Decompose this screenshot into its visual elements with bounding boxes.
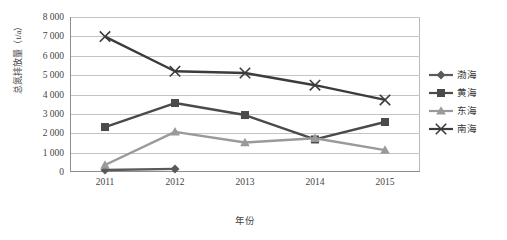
legend-label: 南海 [454,123,477,135]
line-chart-figure: 总氮排放量（t/a） 8 0007 0006 0005 0004 0003 00… [0,0,507,240]
legend-item[interactable]: 南海 [428,120,504,138]
y-tick-label: 5 000 [18,70,64,81]
x-tick-label: 2012 [145,176,205,188]
data-point-square [437,89,445,97]
data-point-diamond [437,71,446,80]
y-tick-label: 7 000 [18,31,64,42]
legend-item[interactable]: 东海 [428,102,504,120]
data-point-diamond [171,164,180,173]
y-tick-label: 6 000 [18,51,64,62]
legend-swatch-diamond [428,68,454,82]
y-tick-label: 4 000 [18,90,64,101]
legend-swatch-triangle [428,104,454,118]
x-axis-title: 年份 [70,213,420,227]
series-triangle [100,127,390,169]
series-line [105,103,385,139]
series-diamond [101,164,180,174]
legend-label: 东海 [454,105,477,117]
y-tick-label: 3 000 [18,109,64,120]
series-line [105,132,385,165]
data-point-square [241,111,249,119]
y-tick-label: 8 000 [18,12,64,23]
data-point-square [171,99,179,107]
y-axis-tick-labels: 8 0007 0006 0005 0004 0003 0002 0001 000… [18,11,64,171]
series-x [100,31,390,105]
y-tick-label: 0 [18,167,64,178]
y-tick-label: 2 000 [18,128,64,139]
legend: 渤海黄海东海南海 [428,66,504,138]
legend-label: 渤海 [454,69,477,81]
y-tick-label: 1 000 [18,148,64,159]
x-tick-label: 2015 [355,176,415,188]
legend-item[interactable]: 黄海 [428,84,504,102]
legend-item[interactable]: 渤海 [428,66,504,84]
legend-label: 黄海 [454,87,477,99]
x-tick-label: 2013 [215,176,275,188]
series-line [105,169,175,170]
series-layer [70,17,420,172]
series-line [105,37,385,100]
data-point-square [381,118,389,126]
x-axis-tick-labels: 20112012201320142015 [70,176,420,190]
series-square [101,99,389,143]
data-point-x [100,31,110,41]
legend-swatch-square [428,86,454,100]
plot-area [70,17,420,172]
x-tick-label: 2011 [75,176,135,188]
x-tick-label: 2014 [285,176,345,188]
legend-swatch-x [428,122,454,136]
data-point-square [101,123,109,131]
